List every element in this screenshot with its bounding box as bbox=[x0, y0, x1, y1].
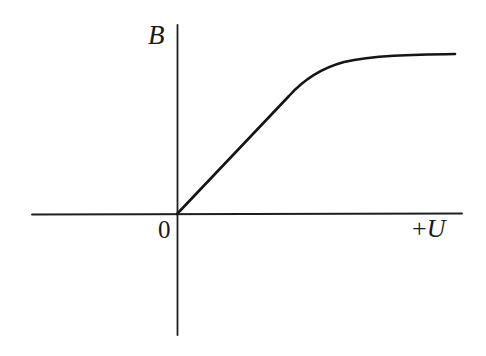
plus-sign-glyph: + bbox=[412, 214, 427, 243]
x-axis-label: +U bbox=[412, 216, 445, 242]
origin-label: 0 bbox=[158, 217, 171, 242]
plot-background bbox=[0, 0, 486, 356]
plot-canvas bbox=[0, 0, 486, 356]
x-axis-line bbox=[32, 214, 462, 215]
y-axis-label: B bbox=[148, 22, 165, 49]
figure-container: B 0 +U bbox=[0, 0, 486, 356]
x-axis-symbol-glyph: U bbox=[427, 214, 446, 243]
